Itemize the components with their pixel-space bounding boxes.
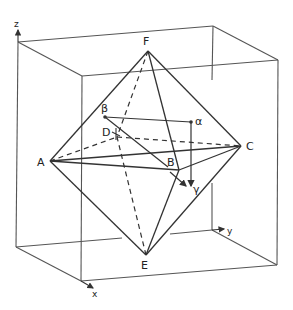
octahedron-diagram: z x y F A C E B D α β γ [0, 0, 293, 310]
axes [18, 30, 224, 288]
vertex-label-a: A [37, 156, 45, 169]
y-axis [212, 229, 224, 230]
beta-b-line [105, 117, 168, 167]
vector-label-alpha: α [195, 115, 202, 128]
vertex-label-f: F [143, 35, 149, 48]
vertex-label-d: D [102, 126, 110, 139]
y-axis-label: y [227, 226, 233, 236]
vector-label-beta: β [101, 102, 108, 115]
vertex-label-c: C [246, 140, 254, 153]
beta-alpha-line [105, 117, 191, 122]
x-axis [81, 281, 93, 288]
x-axis-label: x [92, 289, 98, 299]
vertex-label-b: B [167, 156, 175, 169]
vertex-label-e: E [141, 259, 148, 272]
vector-label-gamma: γ [193, 183, 200, 196]
z-axis-label: z [14, 19, 19, 29]
